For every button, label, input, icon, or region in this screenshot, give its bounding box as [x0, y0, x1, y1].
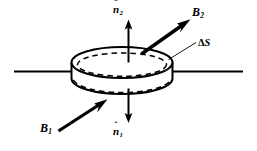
label-normal-lower-subscript: 1	[119, 131, 122, 138]
hat-accent-lower: ˆ	[115, 121, 118, 130]
label-area-element: ΔS	[198, 38, 210, 49]
label-area-element-symbol: S	[205, 37, 211, 48]
field-arrow-upper	[142, 19, 191, 54]
hat-accent-upper: ˆ	[115, 0, 118, 7]
pillbox-top-ellipse	[72, 47, 173, 78]
label-field-upper-subscript: 2	[200, 11, 204, 20]
physics-figure-pillbox: ˆn2 ˆn1 B2 B1 ΔS	[0, 0, 257, 151]
figure-canvas	[0, 0, 257, 151]
label-normal-upper: ˆn2	[113, 4, 123, 15]
area-leader-line	[169, 43, 197, 60]
label-normal-upper-subscript: 2	[119, 9, 122, 16]
label-normal-lower: ˆn1	[113, 126, 123, 137]
label-field-lower: B1	[40, 122, 52, 134]
field-arrow-lower	[59, 99, 108, 131]
label-field-lower-subscript: 1	[48, 127, 52, 136]
label-field-lower-symbol: B	[40, 121, 48, 135]
label-field-upper: B2	[192, 6, 204, 18]
delta-glyph: Δ	[198, 37, 205, 48]
label-field-upper-symbol: B	[192, 5, 200, 19]
